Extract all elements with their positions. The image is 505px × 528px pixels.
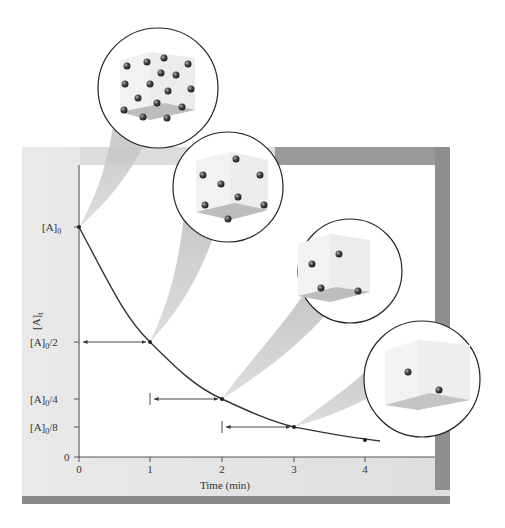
x-label-0: 0 — [76, 463, 82, 475]
x-axis-title: Time (min) — [200, 479, 250, 492]
half-life-diagram: [A]0 [A]0/2 [A]0/4 [A]0/8 0 [A]t 0 1 2 3… — [0, 0, 505, 528]
x-label-2: 2 — [219, 463, 225, 475]
inset-t2-4-molecules — [298, 219, 402, 323]
inset-t0-16-molecules — [98, 28, 218, 148]
y-label-zero: 0 — [64, 451, 70, 463]
x-label-1: 1 — [147, 463, 153, 475]
inset-t3-2-molecules — [364, 321, 480, 437]
x-label-3: 3 — [291, 463, 297, 475]
x-label-4: 4 — [362, 463, 368, 475]
figure: [A]0 [A]0/2 [A]0/4 [A]0/8 0 [A]t 0 1 2 3… — [0, 0, 505, 528]
inset-t1-8-molecules — [173, 132, 283, 242]
